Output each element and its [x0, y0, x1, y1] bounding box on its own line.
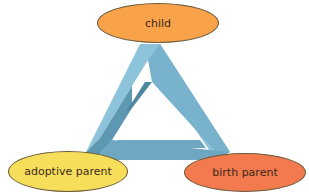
node-child-label: child — [145, 17, 171, 30]
node-birth-parent: birth parent — [184, 153, 306, 192]
node-child: child — [97, 3, 219, 43]
node-adoptive-parent-label: adoptive parent — [24, 165, 112, 178]
node-birth-parent-label: birth parent — [212, 166, 277, 179]
node-adoptive-parent: adoptive parent — [8, 151, 128, 192]
